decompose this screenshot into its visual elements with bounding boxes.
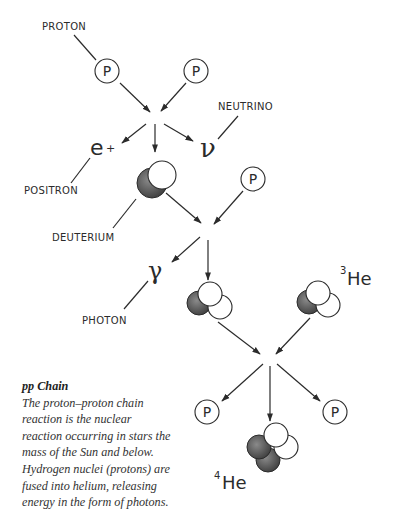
- caption-body: The proton–proton chain reaction is the …: [22, 395, 172, 511]
- helium4-nucleus: [247, 423, 298, 472]
- neutrino-label: NEUTRINO: [218, 101, 273, 112]
- photon-label: PHOTON: [82, 315, 127, 326]
- arrow-p1-to-junction1: [120, 83, 150, 112]
- proton-label: PROTON: [42, 21, 86, 32]
- arrow-he3right-to-junction3: [276, 318, 310, 354]
- svg-text:e: e: [90, 135, 104, 160]
- caption-title: pp Chain: [22, 378, 172, 395]
- proton-symbol: P: [203, 404, 211, 420]
- positron-symbol: e +: [90, 135, 115, 160]
- proton-symbol: P: [103, 63, 111, 79]
- helium3-label: 3 He: [340, 265, 372, 289]
- neutrino-leader-line: [218, 116, 238, 139]
- proton-symbol: P: [331, 404, 339, 420]
- svg-text:He: He: [347, 268, 372, 289]
- svg-text:3: 3: [340, 265, 346, 276]
- helium3-nucleus-left: [187, 282, 232, 319]
- photon-symbol: γ: [148, 257, 162, 285]
- arrow-to-positron: [122, 124, 146, 143]
- proton-2: P: [184, 59, 208, 83]
- arrow-he3left-to-junction3: [218, 322, 260, 354]
- arrow-to-proton-4: [222, 364, 263, 401]
- proton-symbol: P: [192, 63, 200, 79]
- arrow-to-neutrino: [164, 124, 193, 141]
- svg-text:4: 4: [214, 470, 220, 481]
- positron-leader-line: [71, 158, 90, 183]
- svg-text:+: +: [106, 142, 115, 155]
- deuterium-nucleus: [137, 161, 176, 198]
- helium3-nucleus-right: [297, 281, 340, 317]
- arrow-to-photon: [172, 237, 200, 262]
- arrow-deuterium-to-junction2: [166, 193, 201, 223]
- neutrino-symbol: ν: [200, 133, 216, 163]
- deuterium-label: DEUTERIUM: [52, 232, 114, 243]
- arrow-p3-to-junction2: [214, 191, 243, 224]
- deuterium-leader-line: [113, 199, 136, 228]
- proton-1: P: [95, 59, 119, 83]
- proton-3: P: [241, 167, 265, 191]
- photon-leader-line: [124, 281, 148, 309]
- proton-symbol: P: [249, 171, 257, 187]
- proton-5: P: [323, 400, 347, 424]
- arrow-to-proton-5: [277, 364, 320, 401]
- svg-text:He: He: [222, 472, 247, 493]
- proton-leader-line: [74, 35, 96, 60]
- proton-4: P: [195, 400, 219, 424]
- arrow-p2-to-junction1: [161, 83, 186, 111]
- caption: pp Chain The proton–proton chain reactio…: [22, 378, 172, 511]
- positron-label: POSITRON: [24, 185, 78, 196]
- helium4-label: 4 He: [214, 470, 247, 493]
